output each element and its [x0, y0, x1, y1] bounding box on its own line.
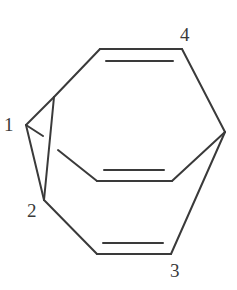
bond-top-right-diagonal: [182, 49, 225, 132]
bond-middle-left-diagonal: [58, 150, 97, 181]
bond-skeleton: [26, 49, 225, 254]
bond-1-to-2: [26, 125, 44, 200]
bond-upper-to-2: [44, 97, 54, 200]
bond-1-to-upper: [26, 97, 54, 125]
atom-label-1: 1: [4, 114, 14, 135]
bond-2-to-bottom-left: [44, 200, 97, 254]
bond-middle-right-diagonal: [172, 132, 225, 181]
chemical-structure-diagram: 1 2 3 4: [0, 0, 237, 290]
atom-label-3: 3: [170, 260, 180, 281]
atom-label-4: 4: [180, 24, 190, 45]
bond-upper-left-diagonal: [54, 49, 100, 97]
atom-label-2: 2: [27, 200, 37, 221]
bond-bottom-right-diagonal: [171, 132, 225, 254]
